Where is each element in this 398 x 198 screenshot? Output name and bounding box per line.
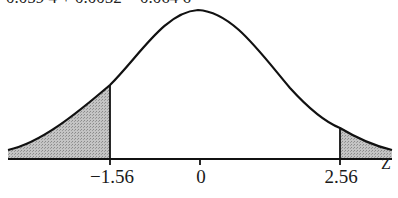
z-axis-label: Z xyxy=(381,155,391,173)
tick-label-zero: 0 xyxy=(196,166,206,188)
tick-label-right: 2.56 xyxy=(324,166,357,188)
tick-label-left: −1.56 xyxy=(90,166,134,188)
normal-curve-figure: 0.059 4 + 0.0052 = 0.064 6 −1.56 0 2.56 … xyxy=(0,0,398,198)
left-tail-shade xyxy=(8,85,110,159)
